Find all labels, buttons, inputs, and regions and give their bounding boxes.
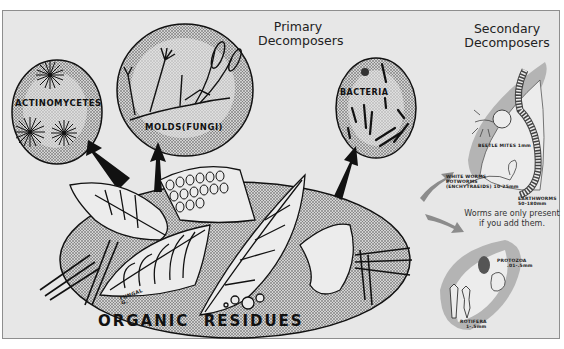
rotifera-line2: 1-.5mm — [460, 324, 487, 329]
bacteria-label: BACTERIA — [340, 88, 388, 97]
worms-note-line2: if you add them. — [462, 219, 562, 229]
molds-circle — [117, 24, 253, 156]
white-worms-line3: (ENCHYTRAEIDS) 10-25mm — [446, 184, 519, 189]
secondary-heading-line1: Secondary — [462, 22, 552, 36]
protozoa-line2: .01-.5mm — [497, 263, 533, 268]
molds-label: MOLDS(FUNGI) — [145, 122, 223, 132]
bacteria-circle — [336, 58, 416, 158]
primary-decomposers-heading: Primary Decomposers — [258, 20, 338, 48]
primary-heading-line2: Decomposers — [258, 34, 338, 48]
worms-note: Worms are only present if you add them. — [462, 209, 562, 229]
beetle-mites-label: BEETLE MITES 1mm — [478, 143, 531, 148]
earthworms-line2: 50-180mm — [518, 201, 557, 206]
secondary-heading-line2: Decomposers — [462, 36, 552, 50]
secondary-decomposers-heading: Secondary Decomposers — [462, 22, 552, 50]
primary-heading-line1: Primary — [258, 20, 338, 34]
secondary-lower-shape — [440, 240, 521, 330]
rotifera-label: ROTIFERA 1-.5mm — [460, 319, 487, 329]
earthworms-label: EARTHWORMS 50-180mm — [518, 196, 557, 206]
worms-note-line1: Worms are only present — [462, 209, 562, 219]
white-worms-label: WHITE WORMS POTWORMS (ENCHYTRAEIDS) 10-2… — [446, 174, 519, 189]
organic-residues-label: ORGANIC RESIDUES — [98, 312, 304, 330]
protozoa-label: PROTOZOA .01-.5mm — [497, 258, 533, 268]
actinomycetes-label: ACTINOMYCETES — [15, 98, 102, 108]
